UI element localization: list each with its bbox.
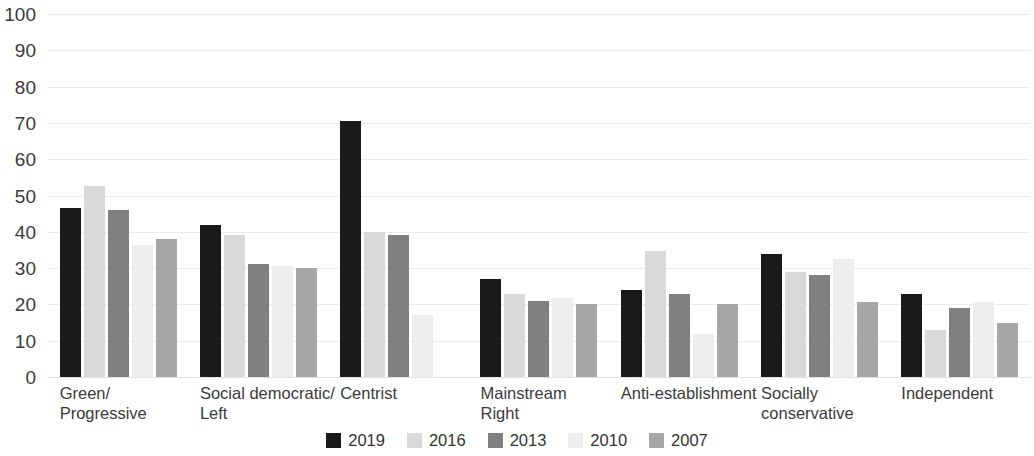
legend-swatch-icon — [326, 433, 341, 448]
bar-2013[interactable] — [949, 308, 970, 377]
bar-group — [469, 14, 609, 377]
bar-2013[interactable] — [388, 235, 409, 377]
legend-item-2010[interactable]: 2010 — [568, 432, 627, 449]
gridline — [48, 377, 1030, 378]
bar-2019[interactable] — [761, 254, 782, 377]
x-tick-label: Independent — [901, 383, 1034, 403]
y-tick-label: 80 — [15, 77, 36, 96]
x-axis: Green/ ProgressiveSocial democratic/ Lef… — [48, 383, 1030, 429]
bar-2016[interactable] — [364, 232, 385, 377]
bars-row — [469, 14, 609, 377]
legend-item-2016[interactable]: 2016 — [407, 432, 466, 449]
bar-2016[interactable] — [504, 294, 525, 377]
bar-group — [48, 14, 188, 377]
bar-2010[interactable] — [552, 298, 573, 377]
bar-group — [609, 14, 749, 377]
bar-2016[interactable] — [645, 251, 666, 377]
y-tick-label: 70 — [15, 113, 36, 132]
legend-item-2019[interactable]: 2019 — [326, 432, 385, 449]
bar-2007[interactable] — [717, 304, 738, 377]
bar-2019[interactable] — [901, 294, 922, 377]
bar-2019[interactable] — [60, 208, 81, 377]
bar-2007[interactable] — [156, 239, 177, 377]
y-tick-label: 50 — [15, 186, 36, 205]
legend-label: 2013 — [510, 432, 547, 449]
legend-label: 2019 — [348, 432, 385, 449]
bar-2010[interactable] — [412, 315, 433, 377]
legend-label: 2007 — [671, 432, 708, 449]
legend-item-2007[interactable]: 2007 — [649, 432, 708, 449]
bars-row — [890, 14, 1030, 377]
y-tick-label: 20 — [15, 295, 36, 314]
bar-2019[interactable] — [480, 279, 501, 377]
y-tick-label: 90 — [15, 41, 36, 60]
y-tick-label: 60 — [15, 150, 36, 169]
bar-group — [749, 14, 889, 377]
bar-2007[interactable] — [857, 302, 878, 378]
bar-2010[interactable] — [973, 302, 994, 378]
chart-legend: 20192016201320102007 — [0, 432, 1034, 449]
bars-row — [609, 14, 749, 377]
bar-2007[interactable] — [997, 323, 1018, 377]
y-axis: 1009080706050403020100 — [0, 0, 44, 391]
legend-label: 2010 — [590, 432, 627, 449]
bar-2019[interactable] — [200, 225, 221, 377]
bar-2013[interactable] — [248, 264, 269, 377]
legend-swatch-icon — [488, 433, 503, 448]
bar-2010[interactable] — [132, 245, 153, 377]
plot-area — [48, 14, 1030, 377]
bar-2010[interactable] — [272, 266, 293, 377]
legend-item-2013[interactable]: 2013 — [488, 432, 547, 449]
bar-2016[interactable] — [224, 235, 245, 377]
bar-2007[interactable] — [576, 304, 597, 377]
bar-2007[interactable] — [296, 268, 317, 377]
bar-2019[interactable] — [621, 290, 642, 377]
legend-swatch-icon — [649, 433, 664, 448]
bar-chart: 1009080706050403020100 Green/ Progressiv… — [0, 0, 1034, 456]
y-tick-label: 0 — [25, 368, 36, 387]
y-tick-label: 40 — [15, 222, 36, 241]
bars-row — [329, 14, 469, 377]
legend-swatch-icon — [568, 433, 583, 448]
bar-2010[interactable] — [833, 259, 854, 377]
bars-row — [749, 14, 889, 377]
bar-group — [188, 14, 328, 377]
bar-2013[interactable] — [669, 294, 690, 377]
y-tick-label: 100 — [4, 5, 36, 24]
bars-row — [48, 14, 188, 377]
bar-2019[interactable] — [340, 121, 361, 377]
bar-group — [890, 14, 1030, 377]
y-tick-label: 10 — [15, 331, 36, 350]
bar-2016[interactable] — [925, 330, 946, 377]
y-tick-label: 30 — [15, 259, 36, 278]
bar-2013[interactable] — [809, 275, 830, 377]
bar-2013[interactable] — [108, 210, 129, 377]
legend-swatch-icon — [407, 433, 422, 448]
legend-label: 2016 — [429, 432, 466, 449]
bar-2016[interactable] — [785, 272, 806, 377]
bar-2013[interactable] — [528, 301, 549, 377]
bar-group — [329, 14, 469, 377]
bar-2010[interactable] — [693, 334, 714, 377]
bars-row — [188, 14, 328, 377]
bar-2016[interactable] — [84, 186, 105, 377]
